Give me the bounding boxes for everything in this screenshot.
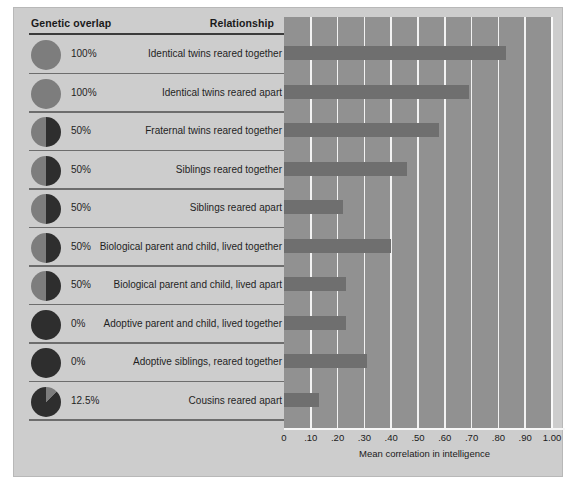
genetic-overlap-pie-icon bbox=[31, 348, 61, 378]
bar bbox=[284, 123, 439, 137]
genetic-overlap-value: 50% bbox=[71, 125, 91, 136]
genetic-overlap-pie-icon bbox=[31, 156, 61, 186]
genetic-overlap-pie-icon bbox=[31, 233, 61, 263]
table-row: 100%Identical twins reared together bbox=[29, 36, 284, 74]
bar bbox=[284, 393, 319, 407]
plot-area bbox=[284, 17, 552, 428]
table-row: 50%Biological parent and child, lived to… bbox=[29, 229, 284, 267]
gridline bbox=[444, 17, 446, 428]
relationship-table: Genetic overlap Relationship 100%Identic… bbox=[14, 8, 286, 476]
chart-figure: Genetic overlap Relationship 100%Identic… bbox=[13, 7, 563, 477]
x-axis-tick-label: 0 bbox=[281, 432, 286, 443]
x-axis-line bbox=[284, 428, 565, 430]
column-header-relationship: Relationship bbox=[210, 17, 274, 29]
table-row: 50%Biological parent and child, lived ap… bbox=[29, 267, 284, 305]
table-row: 50%Fraternal twins reared together bbox=[29, 113, 284, 151]
genetic-overlap-value: 100% bbox=[71, 48, 97, 59]
table-row: 50%Siblings reared together bbox=[29, 152, 284, 190]
bar bbox=[284, 277, 346, 291]
x-axis-tick-label: .70 bbox=[465, 432, 478, 443]
x-axis-tick-label: .80 bbox=[492, 432, 505, 443]
bar bbox=[284, 239, 391, 253]
table-row: 50%Siblings reared apart bbox=[29, 190, 284, 228]
relationship-label: Siblings reared together bbox=[176, 164, 282, 175]
header-divider bbox=[29, 33, 284, 35]
genetic-overlap-pie-icon bbox=[31, 79, 61, 109]
genetic-overlap-value: 50% bbox=[71, 202, 91, 213]
genetic-overlap-pie-icon bbox=[31, 310, 61, 340]
relationship-label: Siblings reared apart bbox=[190, 202, 282, 213]
relationship-label: Adoptive parent and child, lived togethe… bbox=[104, 318, 282, 329]
genetic-overlap-value: 50% bbox=[71, 164, 91, 175]
table-row: 0%Adoptive siblings, reared together bbox=[29, 344, 284, 382]
genetic-overlap-value: 12.5% bbox=[71, 395, 99, 406]
genetic-overlap-value: 50% bbox=[71, 241, 91, 252]
gridline bbox=[390, 17, 392, 428]
genetic-overlap-pie-icon bbox=[31, 271, 61, 301]
relationship-label: Biological parent and child, lived toget… bbox=[100, 241, 282, 252]
bar bbox=[284, 46, 506, 60]
relationship-label: Fraternal twins reared together bbox=[145, 125, 282, 136]
x-axis-tick-label: .90 bbox=[519, 432, 532, 443]
row-divider bbox=[29, 419, 284, 421]
gridline bbox=[524, 17, 526, 428]
genetic-overlap-value: 50% bbox=[71, 279, 91, 290]
relationship-label: Identical twins reared apart bbox=[162, 87, 282, 98]
gridline bbox=[498, 17, 500, 428]
x-axis-tick-label: 1.00 bbox=[543, 432, 562, 443]
x-axis-tick-label: .40 bbox=[385, 432, 398, 443]
x-axis-label: Mean correlation in intelligence bbox=[284, 448, 565, 459]
genetic-overlap-value: 0% bbox=[71, 356, 85, 367]
x-axis-tick-label: .30 bbox=[358, 432, 371, 443]
bar bbox=[284, 316, 346, 330]
relationship-label: Biological parent and child, lived apart bbox=[114, 279, 282, 290]
gridline bbox=[471, 17, 473, 428]
genetic-overlap-pie-icon bbox=[31, 387, 61, 417]
column-header-genetic-overlap: Genetic overlap bbox=[31, 17, 111, 29]
table-row: 0%Adoptive parent and child, lived toget… bbox=[29, 306, 284, 344]
relationship-label: Cousins reared apart bbox=[189, 395, 282, 406]
gridline bbox=[551, 17, 553, 428]
x-axis-tick-label: .50 bbox=[411, 432, 424, 443]
bar bbox=[284, 354, 367, 368]
x-axis-tick-label: .10 bbox=[304, 432, 317, 443]
x-axis-tick-label: .60 bbox=[438, 432, 451, 443]
genetic-overlap-pie-icon bbox=[31, 40, 61, 70]
genetic-overlap-pie-icon bbox=[31, 117, 61, 147]
x-axis-tick-label: .20 bbox=[331, 432, 344, 443]
genetic-overlap-value: 0% bbox=[71, 318, 85, 329]
table-row: 12.5%Cousins reared apart bbox=[29, 383, 284, 421]
gridline bbox=[417, 17, 419, 428]
bar bbox=[284, 200, 343, 214]
relationship-label: Identical twins reared together bbox=[148, 48, 282, 59]
bar bbox=[284, 85, 469, 99]
genetic-overlap-value: 100% bbox=[71, 87, 97, 98]
bar bbox=[284, 162, 407, 176]
relationship-label: Adoptive siblings, reared together bbox=[133, 356, 282, 367]
genetic-overlap-pie-icon bbox=[31, 194, 61, 224]
table-row: 100%Identical twins reared apart bbox=[29, 75, 284, 113]
